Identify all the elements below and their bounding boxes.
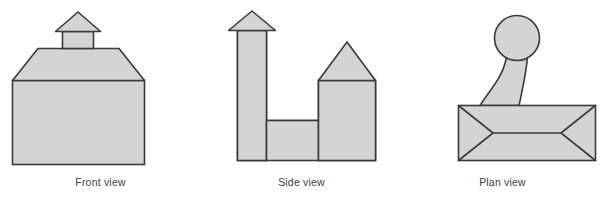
front-cupola-shaft <box>63 32 94 49</box>
side-view-label: Side view <box>201 176 402 188</box>
side-tower-cap-triangle <box>229 11 276 31</box>
side-right-roof-triangle <box>319 42 376 81</box>
side-right-block <box>319 81 376 161</box>
orthographic-drawing-figure: Front view Side view Plan <box>0 0 603 198</box>
plan-view-block: Plan view <box>402 0 603 198</box>
plan-view-drawing <box>402 0 603 198</box>
front-cupola-cap-triangle <box>56 12 101 32</box>
side-middle-low-section <box>267 121 319 161</box>
front-roof-trapezoid <box>13 49 145 81</box>
side-view-block: Side view <box>201 0 402 198</box>
side-view-drawing <box>201 0 402 198</box>
side-left-tower-shaft <box>238 31 267 161</box>
front-body-rectangle <box>13 81 145 165</box>
front-view-drawing <box>0 0 201 198</box>
front-view-label: Front view <box>0 176 201 188</box>
front-view-block: Front view <box>0 0 201 198</box>
plan-circle <box>495 16 540 61</box>
plan-view-label: Plan view <box>402 176 603 188</box>
plan-neck-connector <box>480 57 528 106</box>
